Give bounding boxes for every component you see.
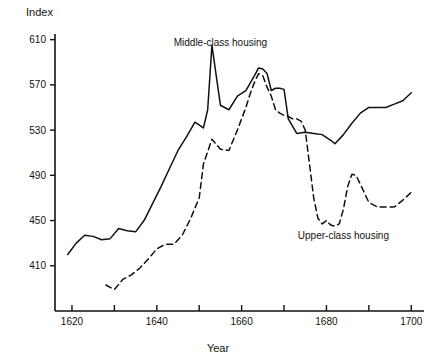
- housing-price-index-chart: 410450490530570610 16201640166016801700 …: [0, 0, 436, 364]
- y-axis-tick-label: 410: [29, 260, 46, 271]
- y-axis-tick-label: 450: [29, 215, 46, 226]
- x-axis-tick-label: 1680: [315, 316, 338, 327]
- x-axis: 16201640166016801700: [55, 305, 424, 327]
- x-axis-title: Year: [207, 342, 230, 354]
- data-series-group: [68, 45, 412, 289]
- y-axis-tick-label: 610: [29, 34, 46, 45]
- y-axis-title: Index: [26, 6, 53, 18]
- chart-canvas: 410450490530570610 16201640166016801700 …: [0, 0, 436, 364]
- series-annotations: Middle-class housingUpper-class housing: [174, 37, 389, 240]
- x-axis-tick-label: 1660: [230, 316, 253, 327]
- y-axis-tick-label: 530: [29, 125, 46, 136]
- series-annotation-label: Upper-class housing: [298, 230, 389, 241]
- y-axis-tick-label: 570: [29, 79, 46, 90]
- x-axis-tick-label: 1640: [146, 316, 169, 327]
- x-axis-tick-label: 1620: [61, 316, 84, 327]
- series-line-solid: [68, 45, 412, 254]
- series-annotation-label: Middle-class housing: [174, 37, 267, 48]
- y-axis-tick-label: 490: [29, 170, 46, 181]
- y-axis: 410450490530570610: [29, 34, 55, 311]
- series-line-dashed: [106, 74, 411, 290]
- x-axis-tick-label: 1700: [400, 316, 423, 327]
